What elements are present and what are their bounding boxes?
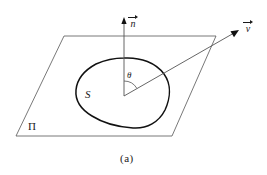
angle-arc [124,81,137,88]
vector-arrow-accent-v [243,20,253,24]
normal-vector-letter: n [128,19,138,29]
velocity-vector-shaft [124,33,234,96]
figure-caption: (a) [120,153,134,164]
surface-label: S [85,89,91,100]
velocity-vector-arrowhead [231,30,240,37]
normal-vector-label: n [128,15,138,29]
vector-arrow-accent-n [128,15,138,19]
plane-parallelogram [16,36,216,136]
plane-label: Π [28,121,36,132]
normal-vector-arrowhead [121,17,126,24]
figure-container: n v θ S Π (a) [0,0,267,175]
velocity-vector-letter: v [243,24,253,34]
angle-label: θ [127,71,131,80]
velocity-vector-label: v [243,20,253,34]
